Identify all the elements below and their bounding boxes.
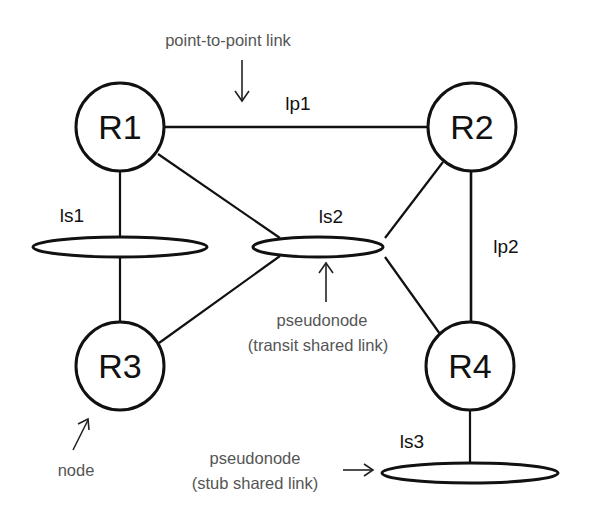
node-r1: R1 xyxy=(76,83,164,171)
stub-pseudonode-annotation-line1: pseudonode xyxy=(210,449,301,467)
link-r1-ls2 xyxy=(158,154,280,238)
node-r2-label: R2 xyxy=(450,108,493,146)
node-r4-label: R4 xyxy=(448,347,491,385)
node-r2: R2 xyxy=(428,83,516,171)
lp1-label: lp1 xyxy=(285,93,310,114)
transit-pseudonode-annotation-line1: pseudonode xyxy=(277,311,368,329)
right-arrow-icon xyxy=(343,464,373,476)
node-r3: R3 xyxy=(76,322,164,410)
lp2-label: lp2 xyxy=(493,236,518,257)
up-arrow-icon xyxy=(319,263,333,302)
node-r1-label: R1 xyxy=(98,108,141,146)
transit-pseudonode-annotation-line2: (transit shared link) xyxy=(248,336,388,354)
ls2-ellipse xyxy=(253,237,383,257)
diagonal-arrow-icon xyxy=(73,419,89,450)
ls3-label: ls3 xyxy=(400,431,424,452)
down-arrow-icon xyxy=(235,60,249,101)
point-to-point-annotation: point-to-point link xyxy=(165,31,291,49)
link-r2-ls2 xyxy=(385,162,443,238)
link-ls2-r4 xyxy=(385,257,440,334)
node-r3-label: R3 xyxy=(98,347,141,385)
network-diagram: R1 R2 R3 R4 lp1 lp2 ls1 ls2 ls3 point-to… xyxy=(0,0,589,516)
link-ls2-r3 xyxy=(159,256,280,343)
ls1-label: ls1 xyxy=(60,205,84,226)
node-annotation: node xyxy=(58,461,95,479)
ls3-ellipse xyxy=(382,463,558,483)
node-r4: R4 xyxy=(426,322,514,410)
ls1-ellipse xyxy=(33,237,207,257)
ls2-label: ls2 xyxy=(319,206,343,227)
stub-pseudonode-annotation-line2: (stub shared link) xyxy=(192,474,319,492)
